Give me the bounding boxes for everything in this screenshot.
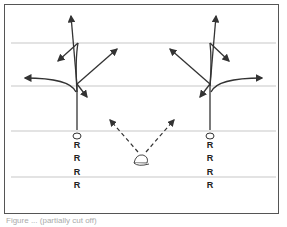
right-receiver-r4: R [205, 180, 215, 191]
right-receiver-r1: R [205, 140, 215, 151]
left-receiver-oval [73, 133, 81, 139]
right-receiver-r2: R [205, 153, 215, 164]
right-receiver-oval [206, 133, 214, 139]
left-receiver-r1: R [72, 140, 82, 151]
route-diagram [0, 0, 287, 227]
football-helmet-icon [134, 155, 149, 165]
left-receiver-r2: R [72, 153, 82, 164]
right-routes [170, 16, 262, 130]
left-routes [25, 16, 117, 130]
right-receiver-r3: R [205, 167, 215, 178]
left-receiver-r4: R [72, 180, 82, 191]
figure-caption: Figure ... (partially cut off) [6, 216, 97, 225]
dashed-reads [110, 120, 174, 152]
left-receiver-r3: R [72, 167, 82, 178]
